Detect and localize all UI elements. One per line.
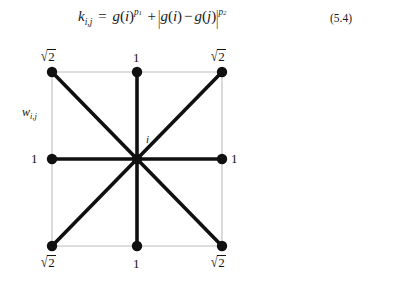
equation-lhs-subscript: i,j [85,16,93,27]
sqrt-glyph: √2 [211,255,226,269]
node-bottom-left[interactable] [47,241,57,251]
equation-minus: − [182,8,194,24]
equation-abs-close: | [216,11,218,24]
node-label-bottom-center: 1 [133,257,140,270]
edge-to-top-right [137,72,222,159]
weights-label-subscript: i,j [30,112,37,121]
edge-to-bottom-right [137,159,222,246]
sqrt-radicand: 2 [47,49,56,63]
diagram-canvas [0,38,270,285]
sqrt-glyph: √2 [41,255,56,269]
neighborhood-diagram: wi,j i √21√211√21√2 [0,38,270,285]
equation-abs-open: | [158,11,160,24]
node-label-middle-left: 1 [31,152,38,165]
edge-to-bottom-left [52,159,137,246]
node-bottom-center[interactable] [132,241,142,251]
equation-formula: ki,j = g(i)p1 +|g(i)−g(j)|p2 [78,8,226,27]
node-label-bottom-right: √2 [211,255,226,269]
equation-term2-func-a: g [160,8,168,24]
node-label-top-center: 1 [133,51,140,64]
equation-equals: = [96,8,108,24]
center-node-label: i [146,134,149,145]
node-label-top-left: √2 [41,49,56,63]
equation-term2-func-b: g [195,8,203,24]
equation-number: (5.4) [330,12,352,24]
node-top-left[interactable] [47,67,57,77]
node-label-top-right: √2 [211,49,226,63]
edge-to-top-left [52,72,137,159]
equation-plus: + [146,8,158,24]
equation-term1-func: g [112,8,120,24]
equation-block: ki,j = g(i)p1 +|g(i)−g(j)|p2 (5.4) [0,0,393,42]
sqrt-glyph: √2 [41,49,56,63]
node-center[interactable] [132,154,142,164]
node-top-center[interactable] [132,67,142,77]
sqrt-radicand: 2 [217,49,226,63]
node-middle-left[interactable] [47,154,57,164]
node-label-bottom-left: √2 [41,255,56,269]
weights-label-symbol: w [22,105,30,119]
weights-label: wi,j [22,106,37,122]
equation-lhs-symbol: k [78,8,85,24]
node-label-middle-right: 1 [231,152,238,165]
node-middle-right[interactable] [217,154,227,164]
sqrt-radicand: 2 [217,255,226,269]
sqrt-radicand: 2 [47,255,56,269]
node-bottom-right[interactable] [217,241,227,251]
equation-term1-exponent-index: 1 [139,9,142,16]
sqrt-glyph: √2 [211,49,226,63]
equation-term2-exponent-index: 2 [223,9,226,16]
node-top-right[interactable] [217,67,227,77]
